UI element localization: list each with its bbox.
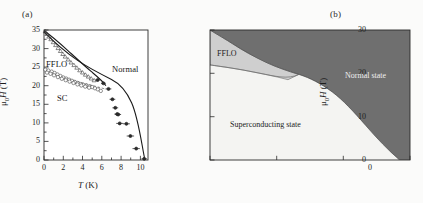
panel-b-plot [160, 0, 423, 203]
panel-a-ytick-20: 20 [22, 81, 40, 90]
panel-a-y-axis-title: μ0H (T) [0, 78, 10, 106]
panel-a-ytick-30: 30 [22, 44, 40, 53]
panel-a-xtick-6: 6 [94, 163, 110, 172]
panel-a-xtick-0: 0 [36, 163, 52, 172]
panel-a-xtick-4: 4 [75, 163, 91, 172]
panel-a-y-axis-sub: 0 [3, 98, 10, 101]
panel-a-x-axis-unit: (K) [83, 180, 98, 190]
panel-b-ytick-10: 10 [348, 112, 366, 121]
panel-a-ytick-10: 10 [22, 118, 40, 127]
panel-b-ytick-30: 30 [348, 25, 366, 34]
panel-a-xtick-8: 8 [113, 163, 129, 172]
figure-container: (a) [0, 0, 423, 203]
panel-a-y-axis-unit: (T) [0, 78, 8, 92]
panel-a-xtick-10: 10 [132, 163, 148, 172]
panel-b-label: (b) [330, 9, 341, 19]
panel-b: (b) 0 10 20 30 0 3 6 9 FFLO Superconduct… [160, 0, 423, 203]
panel-a-y-axis-symbol: H [0, 91, 8, 98]
panel-a-x-axis-title: T (K) [78, 180, 98, 190]
panel-b-xtick-0: 0 [362, 163, 378, 172]
panel-a-region-sc: SC [57, 93, 68, 103]
panel-a-region-normal: Normal [112, 64, 139, 74]
panel-b-y-axis-symbol: H [318, 91, 328, 98]
panel-a-ytick-15: 15 [22, 99, 40, 108]
panel-b-y-axis-sub: 0 [323, 98, 330, 101]
panel-b-region-fflo: FFLO [217, 49, 237, 58]
panel-b-region-sc: Superconducting state [230, 120, 301, 129]
panel-a-y-axis-prefix: μ [0, 101, 8, 106]
panel-b-y-axis-unit: (T) [318, 78, 328, 92]
panel-b-y-axis-prefix: μ [318, 101, 328, 106]
panel-a-ytick-5: 5 [22, 136, 40, 145]
panel-a-ytick-35: 35 [22, 25, 40, 34]
panel-b-regions [210, 30, 410, 160]
panel-a-xtick-2: 2 [55, 163, 71, 172]
panel-b-region-normal: Normal state [345, 71, 386, 80]
panel-b-y-axis-title: μ0H (T) [318, 78, 330, 106]
panel-a-ytick-25: 25 [22, 62, 40, 71]
panel-a-region-fflo: FFLO [46, 59, 67, 69]
